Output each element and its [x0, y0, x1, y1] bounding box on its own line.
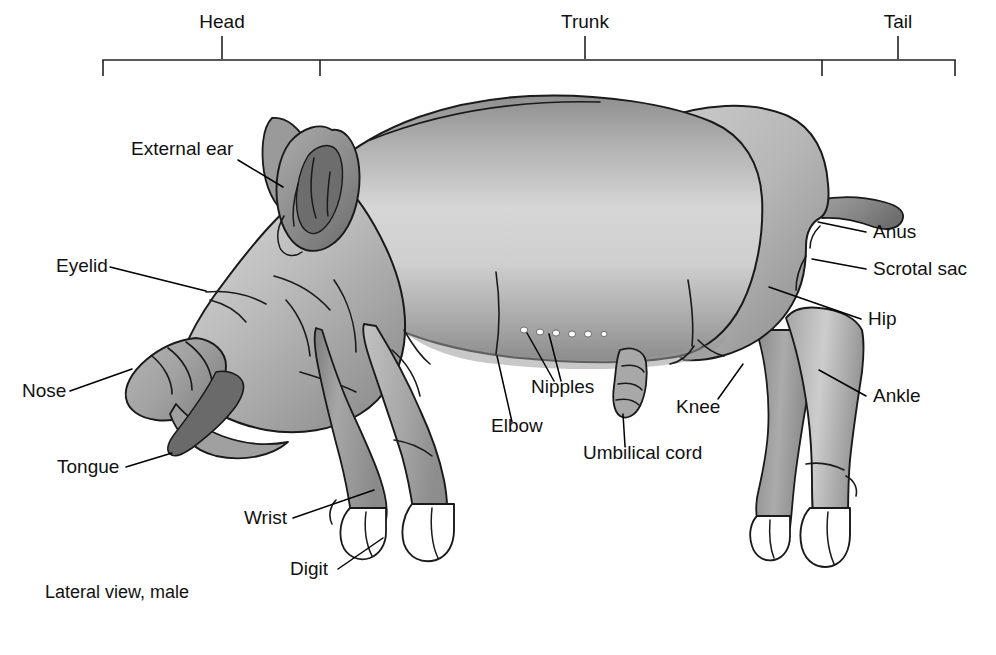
leader-anus: [818, 222, 866, 232]
nipple: [568, 331, 575, 337]
region-scale-bar: Head Trunk Tail: [103, 11, 955, 76]
region-label-trunk: Trunk: [561, 11, 609, 32]
label-ankle: Ankle: [873, 385, 921, 406]
leader-nose: [70, 369, 132, 391]
label-external-ear: External ear: [131, 138, 234, 159]
front-hoof-near: [402, 504, 454, 561]
leader-tongue: [126, 453, 172, 467]
leader-scrotal-sac: [812, 259, 866, 269]
anatomy-figure: Head Trunk Tail: [0, 0, 996, 655]
region-label-tail: Tail: [884, 11, 913, 32]
label-elbow: Elbow: [491, 415, 543, 436]
label-tongue: Tongue: [57, 456, 119, 477]
label-digit: Digit: [290, 558, 329, 579]
label-wrist: Wrist: [244, 507, 288, 528]
leader-elbow: [497, 356, 512, 422]
label-anus: Anus: [873, 221, 916, 242]
pig-illustration: [126, 96, 904, 568]
label-eyelid: Eyelid: [56, 255, 108, 276]
label-nose: Nose: [22, 380, 66, 401]
label-scrotal-sac: Scrotal sac: [873, 258, 967, 279]
nipple: [552, 330, 559, 336]
label-nipples: Nipples: [531, 376, 594, 397]
label-umbilical-cord: Umbilical cord: [583, 442, 702, 463]
nipple: [536, 329, 543, 335]
region-label-head: Head: [199, 11, 244, 32]
pig-lateral-anatomy-diagram: Head Trunk Tail: [0, 0, 996, 655]
rear-hoof-near: [800, 508, 850, 567]
label-hip: Hip: [868, 308, 897, 329]
leader-eyelid: [110, 267, 206, 291]
nipple: [601, 331, 607, 336]
nipple: [584, 331, 591, 337]
anus-detail: [810, 226, 820, 248]
leader-knee: [718, 364, 743, 399]
label-knee: Knee: [676, 396, 720, 417]
figure-caption: Lateral view, male: [45, 582, 189, 602]
nipple: [520, 327, 527, 333]
